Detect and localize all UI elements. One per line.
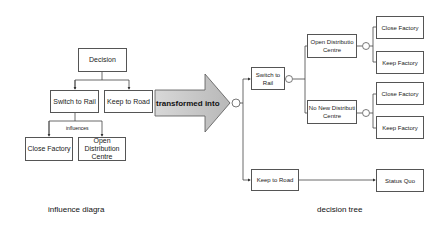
tree-close-factory-2-node: Close Factory — [376, 82, 424, 105]
influence-switch-rail-node: Switch to Rail — [50, 90, 99, 113]
influence-decision-node: Decision — [78, 48, 127, 72]
influence-keep-road-node: Keep to Road — [104, 90, 153, 113]
decision-tree-caption: decision tree — [317, 205, 362, 214]
tree-no-new-dc-node: No New Distributi Centre — [307, 100, 357, 124]
tree-open-dc-node: Open Distributio Centre — [307, 34, 357, 58]
influence-diagram-caption: influence diagra — [48, 205, 104, 214]
tree-close-factory-1-node: Close Factory — [376, 16, 424, 39]
influences-label: influences — [66, 125, 89, 131]
transformed-into-label: transformed into — [156, 99, 220, 108]
tree-keep-factory-2-node: Keep Factory — [376, 116, 424, 139]
tree-status-quo-node: Status Quo — [376, 169, 424, 192]
tree-keep-factory-1-node: Keep Factory — [376, 51, 424, 74]
influence-close-factory-node: Close Factory — [25, 137, 73, 161]
tree-keep-road-node: Keep to Road — [251, 169, 299, 191]
tree-switch-rail-node: Switch to Rail — [251, 67, 285, 90]
influence-open-dc-node: Open Distribution Centre — [78, 137, 126, 161]
